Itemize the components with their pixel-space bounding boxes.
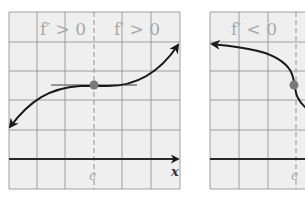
right-point	[290, 81, 299, 90]
left-panel: f′ > 0 f′ > 0 c x	[9, 12, 180, 189]
figure: f′ > 0 f′ > 0 c x f′ < 0 c	[0, 0, 305, 207]
left-point	[90, 81, 99, 90]
right-label-1: f′ < 0	[231, 19, 277, 39]
left-x-label: x	[170, 164, 179, 179]
right-c-label: c	[291, 168, 299, 183]
left-label-1: f′ > 0	[40, 19, 86, 39]
left-label-2: f′ > 0	[114, 19, 160, 39]
left-c-label: c	[89, 168, 97, 183]
right-panel: f′ < 0 c	[210, 12, 305, 189]
